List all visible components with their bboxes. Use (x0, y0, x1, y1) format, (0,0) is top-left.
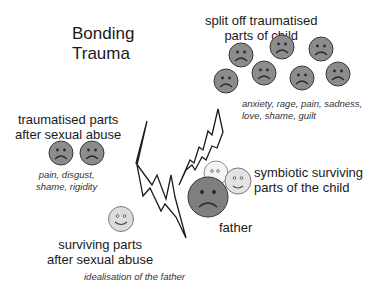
lightning-bolt-left-icon (136, 121, 186, 238)
sad-face-icon (326, 62, 350, 86)
father-face-icon (188, 177, 228, 217)
sad-face-icon (214, 69, 238, 93)
sad-face-icon (49, 141, 73, 165)
happy-face-icon (109, 207, 134, 232)
sad-face-icon (270, 35, 294, 59)
sad-face-icon (229, 43, 253, 67)
sad-face-icon (290, 66, 314, 90)
split-off-faces (214, 35, 350, 93)
sad-face-icon (309, 37, 333, 61)
sad-face-icon (252, 61, 276, 85)
traumatised-faces (49, 141, 104, 165)
symbiotic-light-face-icon (225, 168, 251, 194)
sad-face-icon (80, 141, 104, 165)
diagram-graphics (0, 0, 384, 295)
